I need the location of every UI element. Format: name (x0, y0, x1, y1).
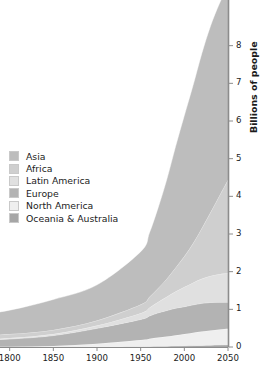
legend-item-europe[interactable]: Europe (9, 187, 144, 199)
y-tick-label-5: 5 (236, 154, 241, 163)
legend-label-europe: Europe (26, 189, 59, 198)
y-tick-label-4: 4 (236, 191, 241, 200)
chart-legend: Asia Africa Latin America Europe North A… (9, 150, 144, 224)
x-tick-label-2050: 2050 (208, 354, 248, 363)
y-tick-label-6: 6 (236, 116, 241, 125)
x-tick-label-1850: 1850 (33, 354, 73, 363)
y-tick-label-0: 0 (236, 342, 241, 351)
legend-item-oceania-australia[interactable]: Oceania & Australia (9, 212, 144, 224)
y-axis-title: Billions of people (249, 41, 258, 133)
legend-swatch-asia (9, 151, 19, 161)
legend-item-asia[interactable]: Asia (9, 150, 144, 162)
y-tick-label-7: 7 (236, 78, 241, 87)
x-tick-label-2000: 2000 (164, 354, 204, 363)
y-tick-label-3: 3 (236, 229, 241, 238)
y-tick-label-1: 1 (236, 304, 241, 313)
legend-swatch-north-america (9, 201, 19, 211)
legend-label-latin-america: Latin America (26, 176, 90, 185)
legend-swatch-oceania-australia (9, 213, 19, 223)
legend-item-latin-america[interactable]: Latin America (9, 175, 144, 187)
legend-label-africa: Africa (26, 164, 53, 173)
legend-swatch-africa (9, 164, 19, 174)
legend-item-africa[interactable]: Africa (9, 162, 144, 174)
legend-item-north-america[interactable]: North America (9, 200, 144, 212)
legend-swatch-europe (9, 188, 19, 198)
x-tick-label-1800: 1800 (0, 354, 30, 363)
legend-label-north-america: North America (26, 201, 93, 210)
y-tick-label-2: 2 (236, 267, 241, 276)
legend-swatch-latin-america (9, 176, 19, 186)
legend-label-oceania-australia: Oceania & Australia (26, 214, 118, 223)
x-tick-label-1950: 1950 (121, 354, 161, 363)
legend-label-asia: Asia (26, 152, 45, 161)
x-tick-label-1900: 1900 (77, 354, 117, 363)
population-area-chart: Asia Africa Latin America Europe North A… (0, 0, 272, 377)
y-tick-label-8: 8 (236, 41, 241, 50)
